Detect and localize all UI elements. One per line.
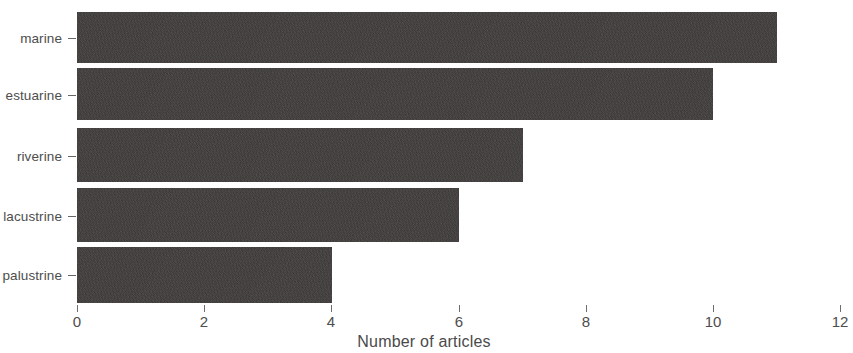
plot-area: marine estuarine riverine lacustrine pal… [0, 0, 848, 305]
x-axis-tick [713, 305, 714, 312]
x-axis-tick-label: 8 [566, 313, 606, 330]
x-axis-tick [77, 305, 78, 312]
category-label-estuarine: estuarine [6, 88, 62, 103]
bar-marine [77, 12, 777, 63]
bar-row [0, 188, 848, 242]
category-tick-palustrine [68, 275, 76, 276]
bar-riverine [77, 128, 523, 182]
bar-estuarine [77, 68, 713, 120]
category-label-marine: marine [20, 31, 62, 46]
bar-lacustrine [77, 188, 459, 242]
x-axis-tick [586, 305, 587, 312]
bar-row [0, 128, 848, 182]
category-tick-lacustrine [68, 216, 76, 217]
category-tick-estuarine [68, 95, 76, 96]
x-axis-tick-label: 4 [311, 313, 351, 330]
bar-row [0, 68, 848, 120]
bar-palustrine [77, 247, 332, 303]
category-tick-marine [68, 38, 76, 39]
x-axis-tick-label: 2 [184, 313, 224, 330]
x-axis-tick-label: 12 [820, 313, 853, 330]
bar-row [0, 12, 848, 63]
x-axis-tick [204, 305, 205, 312]
x-axis-tick-label: 10 [693, 313, 733, 330]
x-axis-tick [331, 305, 332, 312]
x-axis-tick [459, 305, 460, 312]
x-axis-title: Number of articles [0, 333, 848, 351]
x-axis-tick-label: 0 [57, 313, 97, 330]
x-axis-tick-label: 6 [439, 313, 479, 330]
category-label-palustrine: palustrine [2, 268, 62, 283]
bar-row [0, 247, 848, 303]
category-label-lacustrine: lacustrine [3, 209, 62, 224]
category-tick-riverine [68, 156, 76, 157]
category-label-riverine: riverine [17, 149, 62, 164]
x-axis-tick [840, 305, 841, 312]
